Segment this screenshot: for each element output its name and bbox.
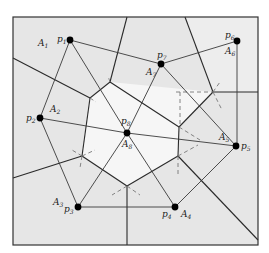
site-p4 bbox=[172, 204, 179, 211]
site-p5 bbox=[233, 143, 240, 150]
voronoi-diagram: p1 p2 p3 p4 p5 p6 p7 p8 A1 A2 A3 A4 A5 A… bbox=[0, 0, 269, 253]
site-p2 bbox=[37, 115, 44, 122]
site-p6 bbox=[234, 38, 241, 45]
site-p1 bbox=[67, 37, 74, 44]
site-p3 bbox=[75, 204, 82, 211]
site-p8 bbox=[124, 130, 131, 137]
site-p7 bbox=[158, 61, 165, 68]
